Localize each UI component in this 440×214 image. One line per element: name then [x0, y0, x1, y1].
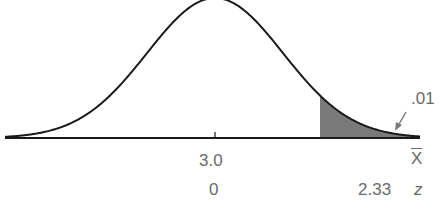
- normal-curve: [5, 0, 420, 137]
- critical-z-label: 2.33: [358, 181, 391, 198]
- tail-area-label: .01: [411, 90, 435, 107]
- x-bar-symbol: X: [411, 149, 422, 168]
- mean-z-label: 0: [209, 181, 218, 198]
- x-bar-axis-label: X: [411, 150, 422, 167]
- mean-x-label: 3.0: [199, 152, 223, 169]
- z-axis-label: z: [414, 181, 423, 198]
- shaded-tail-region: [320, 96, 420, 139]
- tail-arrow-head: [395, 122, 402, 131]
